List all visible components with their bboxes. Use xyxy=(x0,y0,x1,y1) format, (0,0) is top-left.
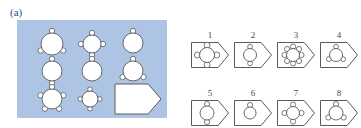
panel-b-cell-drawing xyxy=(319,41,359,69)
particle-body xyxy=(123,33,143,53)
panel-b-cell-number: 4 xyxy=(319,30,359,40)
panel-b-cell-3[interactable]: 3 xyxy=(276,30,316,72)
panel-b-cell-7[interactable]: 7 xyxy=(276,88,316,128)
particle-a3 xyxy=(123,28,143,53)
panel-b-cell-number: 1 xyxy=(190,30,230,40)
panel-b-cell-number: 7 xyxy=(276,88,316,98)
panel-b: (b) 12345678 xyxy=(178,0,361,128)
panel-b-cell-drawing xyxy=(276,41,316,69)
panel-a: (a) xyxy=(0,0,178,128)
particle-body xyxy=(83,35,101,53)
particle-a8 xyxy=(78,87,102,111)
pentagon-plate-outline xyxy=(115,84,161,114)
particle-body xyxy=(42,89,62,109)
particle-a6 xyxy=(120,56,146,81)
figure-root: (a) (b) 12345678 xyxy=(0,0,361,128)
panel-b-cell-drawing xyxy=(276,99,316,127)
panel-b-cell-4[interactable]: 4 xyxy=(319,30,359,72)
panel-b-cell-5[interactable]: 5 xyxy=(190,88,230,128)
panel-b-cell-drawing xyxy=(319,99,359,127)
particle-body xyxy=(329,106,343,120)
particle-body xyxy=(244,107,256,119)
panel-b-cell-number: 2 xyxy=(233,30,273,40)
panel-b-cell-number: 8 xyxy=(319,88,359,98)
panel-a-shapes xyxy=(0,0,178,128)
panel-b-cell-number: 6 xyxy=(233,88,273,98)
panel-b-cell-6[interactable]: 6 xyxy=(233,88,273,128)
particle-a2 xyxy=(78,30,105,57)
panel-b-cell-drawing xyxy=(233,41,273,69)
particle-a7 xyxy=(38,84,66,111)
particle-schematic xyxy=(282,44,304,66)
panel-b-cell-8[interactable]: 8 xyxy=(319,88,359,128)
particle-body xyxy=(200,106,214,120)
particle-body xyxy=(41,33,63,55)
particle-body xyxy=(287,107,300,120)
particle-body xyxy=(287,49,300,62)
particle-body xyxy=(330,49,343,62)
particle-body xyxy=(244,49,257,62)
particle-a4 xyxy=(42,56,62,85)
particle-a5 xyxy=(82,56,102,81)
panel-b-cell-1[interactable]: 1 xyxy=(190,30,230,72)
panel-b-cell-drawing xyxy=(233,99,273,127)
particle-body xyxy=(200,48,215,63)
particle-a1 xyxy=(38,28,66,55)
panel-b-cell-drawing xyxy=(190,99,230,127)
panel-b-cell-number: 3 xyxy=(276,30,316,40)
particle-body xyxy=(42,61,62,81)
particle-body xyxy=(82,91,98,107)
panel-b-cell-2[interactable]: 2 xyxy=(233,30,273,72)
particle-body xyxy=(82,61,102,81)
panel-b-cell-number: 5 xyxy=(190,88,230,98)
particle-body xyxy=(123,61,143,81)
panel-b-cell-drawing xyxy=(190,41,230,69)
particle-a9 xyxy=(115,84,161,114)
